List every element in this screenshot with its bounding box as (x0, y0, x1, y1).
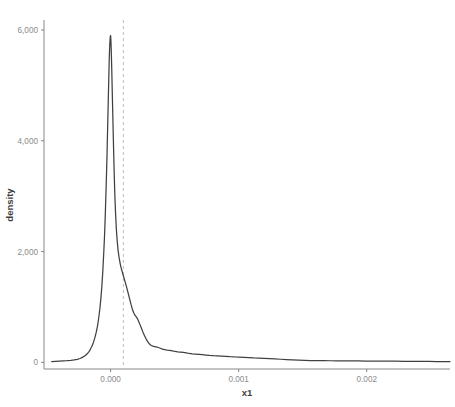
x-tick-label: 0.002 (357, 375, 378, 384)
y-axis-title: density (4, 188, 15, 222)
y-tick-label: 4,000 (18, 137, 39, 146)
chart-background (0, 0, 455, 407)
y-tick-label: 6,000 (18, 26, 39, 35)
density-plot: 02,0004,0006,000 0.0000.0010.002 x1 dens… (0, 0, 455, 407)
chart-canvas: 02,0004,0006,000 0.0000.0010.002 x1 dens… (0, 0, 455, 407)
y-tick-label: 2,000 (18, 248, 39, 257)
y-tick-label: 0 (33, 358, 38, 367)
x-axis-title: x1 (242, 387, 253, 398)
x-tick-label: 0.000 (100, 375, 121, 384)
x-tick-label: 0.001 (228, 375, 249, 384)
